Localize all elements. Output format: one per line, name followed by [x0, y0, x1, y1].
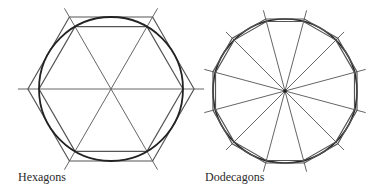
hexagons-figure [18, 8, 204, 169]
dodecagons-figure [204, 10, 365, 171]
dodecagons-label: Dodecagons [205, 170, 264, 185]
polygon-approximation-diagram [0, 0, 381, 193]
hexagons-label: Hexagons [18, 170, 66, 185]
center-point [283, 89, 287, 93]
